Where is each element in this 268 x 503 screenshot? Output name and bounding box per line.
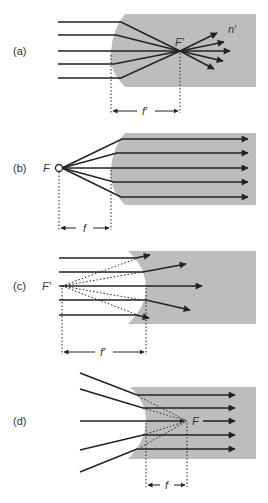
distance-label-d: f xyxy=(165,479,169,491)
distance-label-a: f′ xyxy=(142,105,148,117)
panel-c: (c) F′ f′ xyxy=(13,251,256,358)
panel-a: (a) F′ n′ f′ xyxy=(13,14,256,117)
panel-label-c: (c) xyxy=(13,280,26,292)
rays-c xyxy=(59,255,202,318)
panel-b: (b) F f xyxy=(13,133,256,234)
panel-d: (d) F f xyxy=(13,373,256,491)
panel-label-b: (b) xyxy=(13,162,26,174)
focus-label-a: F′ xyxy=(175,36,185,48)
medium-region-b xyxy=(111,133,256,205)
distance-label-c: f′ xyxy=(100,346,106,358)
focus-label-b: F xyxy=(43,162,51,174)
focus-label-c: F′ xyxy=(42,280,52,292)
panel-label-a: (a) xyxy=(13,45,26,57)
refraction-diagram: (a) F′ n′ f′ (b) xyxy=(0,0,268,503)
distance-label-b: f xyxy=(83,222,87,234)
medium-region-c xyxy=(128,251,256,324)
index-label-a: n′ xyxy=(228,23,237,35)
panel-label-d: (d) xyxy=(13,415,26,427)
focal-point-b xyxy=(56,165,63,172)
